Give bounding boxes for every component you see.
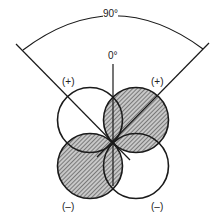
orbital-diagram: 90° 0° (+) (+) (–) (–) bbox=[0, 0, 218, 222]
diagram-graphic bbox=[0, 0, 218, 222]
sign-upper-right: (+) bbox=[151, 77, 164, 87]
sign-upper-left: (+) bbox=[62, 77, 75, 87]
sign-lower-left: (–) bbox=[62, 202, 74, 212]
zero-label: 0° bbox=[108, 51, 118, 61]
sign-lower-right: (–) bbox=[151, 202, 163, 212]
angle-arc bbox=[23, 16, 203, 50]
angle-label: 90° bbox=[103, 9, 118, 19]
